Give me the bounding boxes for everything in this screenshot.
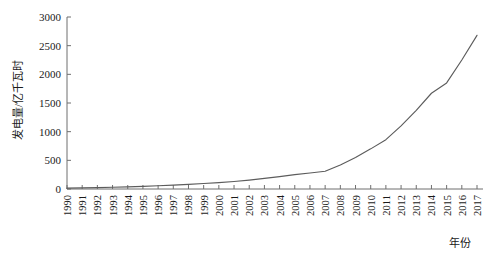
x-tick-label: 2006 [305, 195, 316, 216]
x-axis-title: 年份 [449, 236, 471, 249]
x-tick-label: 2015 [442, 195, 453, 216]
y-tick-label: 2000 [39, 68, 62, 80]
x-tick-label: 1990 [62, 195, 73, 216]
clipped-title-text [0, 0, 494, 4]
x-tick-label: 1998 [183, 195, 194, 216]
x-tick-label: 2013 [411, 195, 422, 216]
x-tick-label: 1997 [168, 195, 179, 216]
y-tick-label: 2500 [39, 40, 62, 52]
x-tick-label: 2011 [381, 195, 392, 216]
y-axis: 050010001500200025003000 [39, 11, 71, 195]
data-series [67, 35, 477, 188]
x-tick-label: 1995 [138, 195, 149, 216]
x-tick-label: 1999 [199, 195, 210, 216]
y-tick-label: 3000 [39, 11, 62, 23]
x-tick-label: 2005 [290, 195, 301, 216]
x-tick-label: 2014 [426, 194, 437, 216]
x-tick-label: 2007 [320, 195, 331, 216]
x-tick-label: 1994 [123, 194, 134, 216]
x-tick-label: 2008 [335, 195, 346, 216]
x-tick-label: 2001 [229, 195, 240, 216]
x-tick-label: 1993 [108, 195, 119, 216]
x-tick-label: 1991 [77, 195, 88, 216]
x-tick-label: 2002 [244, 195, 255, 216]
x-tick-label: 2003 [259, 195, 270, 216]
series-line-发电量 [67, 35, 477, 188]
y-tick-label: 1000 [39, 126, 62, 138]
x-tick-label: 2010 [366, 195, 377, 216]
x-tick-label: 2004 [275, 194, 286, 216]
x-axis: 1990199119921993199419951996199719981999… [62, 185, 483, 216]
x-tick-label: 1992 [92, 195, 103, 216]
y-tick-label: 1500 [39, 97, 62, 109]
x-tick-label: 2009 [351, 195, 362, 216]
x-tick-label: 1996 [153, 195, 164, 216]
y-tick-label: 500 [45, 154, 62, 166]
x-tick-label: 2000 [214, 195, 225, 216]
x-tick-label: 2017 [472, 195, 483, 216]
x-tick-label: 2012 [396, 195, 407, 216]
y-axis-title: 发电量/亿千瓦时 [11, 60, 24, 140]
chart-figure: 发电量/亿千瓦时 年份 050010001500200025003000 199… [0, 0, 494, 254]
y-tick-label: 0 [56, 183, 62, 195]
line-chart: 发电量/亿千瓦时 年份 050010001500200025003000 199… [0, 0, 494, 254]
x-tick-label: 2016 [457, 195, 468, 216]
